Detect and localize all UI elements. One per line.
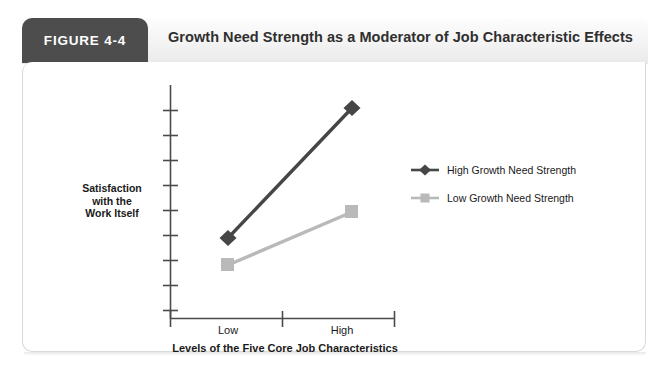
- legend-item-high-growth-need-strength: High Growth Need Strength: [410, 160, 610, 180]
- y-axis-label-line-3: Work Itself: [60, 207, 164, 220]
- y-axis-label-line-1: Satisfaction: [60, 182, 164, 195]
- diamond-marker-icon: [410, 163, 440, 177]
- legend-item-low-growth-need-strength: Low Growth Need Strength: [410, 188, 610, 208]
- y-axis-label-line-2: with the: [60, 195, 164, 208]
- series-low-growth-need-strength: [221, 205, 358, 271]
- legend-label-low-growth-need-strength: Low Growth Need Strength: [447, 192, 574, 204]
- series-high-growth-need-strength: [220, 100, 361, 246]
- figure-container: FIGURE 4-4 Growth Need Strength as a Mod…: [0, 0, 669, 381]
- series-low-marker-low: [221, 258, 234, 271]
- chart-legend: High Growth Need Strength Low Growth Nee…: [410, 160, 610, 216]
- series-low-marker-high: [345, 205, 358, 218]
- y-axis-label: Satisfaction with the Work Itself: [60, 182, 164, 220]
- x-tick-label-high: High: [310, 324, 374, 336]
- square-marker-icon: [410, 191, 440, 205]
- legend-label-high-growth-need-strength: High Growth Need Strength: [447, 164, 576, 176]
- x-axis-title: Levels of the Five Core Job Characterist…: [140, 342, 430, 354]
- x-tick-label-low: Low: [196, 324, 260, 336]
